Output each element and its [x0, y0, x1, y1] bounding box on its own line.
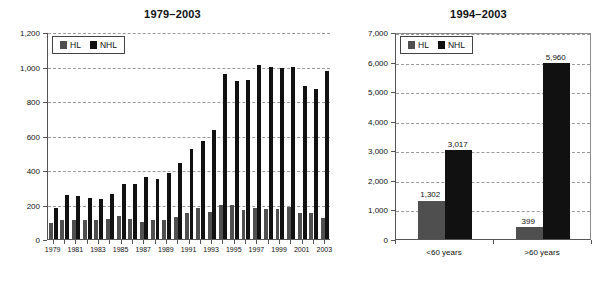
x-axis-tick-label: 1979: [45, 246, 61, 253]
x-axis-tick-mark: [313, 240, 314, 244]
x-axis-category-divider: [493, 240, 494, 244]
legend-entry-nhl: NHL: [438, 40, 465, 50]
y-axis-tick-label: 1,000: [0, 63, 40, 72]
y-axis-tick-label: 1,000: [352, 206, 388, 215]
x-axis-tick-mark: [64, 240, 65, 244]
legend-label-hl: HL: [418, 40, 429, 50]
chart-title-left: 1979–2003: [0, 8, 345, 20]
y-axis-tick-label: 5,000: [352, 88, 388, 97]
legend-swatch-hl-icon: [60, 41, 67, 49]
bar-value-label: 1,302: [420, 190, 440, 199]
bar-hl-2003: [321, 218, 325, 239]
bar-nhl-1987: [144, 177, 148, 239]
legend-entry-nhl: NHL: [90, 40, 117, 50]
x-axis-tick-label: 1989: [158, 246, 174, 253]
chart-panel-right: 1994–2003 HL NHL 01,0002,0003,0004,0005,…: [352, 0, 605, 283]
bar-nhl-1984: [110, 194, 114, 239]
bar-nhl-1992: [201, 141, 205, 239]
x-axis-tick-label: 1995: [226, 246, 242, 253]
x-axis-tick-label: 1991: [181, 246, 197, 253]
bar-hl-1982: [83, 220, 87, 239]
legend-entry-hl: HL: [60, 40, 81, 50]
x-axis-tick-mark: [279, 240, 280, 244]
bar-hl-1988: [151, 220, 155, 239]
legend-swatch-nhl-icon: [90, 41, 97, 49]
x-axis-tick-mark: [75, 240, 76, 244]
bar-hl->60 years: [516, 227, 543, 239]
legend-label-nhl: NHL: [100, 40, 117, 50]
x-axis-tick-mark: [245, 240, 246, 244]
x-axis-category-divider: [591, 240, 592, 244]
x-axis-tick-mark: [166, 240, 167, 244]
x-axis-tick-mark: [132, 240, 133, 244]
bar-nhl-1993: [212, 130, 216, 239]
legend-swatch-nhl-icon: [438, 41, 445, 49]
bar-nhl-2001: [303, 86, 307, 239]
y-axis-tick-mark: [391, 63, 395, 64]
bar-hl-1985: [117, 216, 121, 239]
gridline: [48, 33, 330, 34]
y-axis-tick-mark: [43, 68, 47, 69]
plot-area-right: [395, 33, 591, 240]
x-axis-tick-label: 1993: [203, 246, 219, 253]
bar-nhl-1983: [99, 199, 103, 239]
legend-entry-hl: HL: [408, 40, 429, 50]
x-axis-tick-mark: [200, 240, 201, 244]
x-axis-tick-mark: [155, 240, 156, 244]
x-axis-tick-label: >60 years: [524, 248, 559, 257]
x-axis-tick-mark: [98, 240, 99, 244]
x-axis-tick-mark: [268, 240, 269, 244]
bar-nhl-1994: [223, 74, 227, 239]
chart-legend-right: HL NHL: [400, 36, 473, 54]
chart-legend-left: HL NHL: [52, 36, 125, 54]
y-axis-tick-label: 0: [0, 236, 40, 245]
gridline: [48, 137, 330, 138]
x-axis-tick-mark: [87, 240, 88, 244]
bar-nhl-1998: [269, 67, 273, 239]
y-axis-tick-mark: [43, 33, 47, 34]
x-axis-tick-mark: [302, 240, 303, 244]
x-axis-tick-label: 1999: [271, 246, 287, 253]
y-axis-tick-label: 600: [0, 132, 40, 141]
x-axis-tick-mark: [211, 240, 212, 244]
x-axis-tick-label: <60 years: [426, 248, 461, 257]
bar-hl-1984: [106, 219, 110, 239]
legend-label-nhl: NHL: [448, 40, 465, 50]
y-axis-tick-label: 1,200: [0, 29, 40, 38]
x-axis-tick-mark: [234, 240, 235, 244]
bar-hl-<60 years: [418, 201, 445, 240]
y-axis-tick-mark: [391, 151, 395, 152]
x-axis-tick-mark: [222, 240, 223, 244]
chart-title-right: 1994–2003: [352, 8, 605, 20]
bar-hl-1989: [162, 220, 166, 239]
bar-hl-1987: [140, 222, 144, 239]
y-axis-tick-label: 6,000: [352, 58, 388, 67]
x-axis-tick-mark: [177, 240, 178, 244]
y-axis-tick-label: 2,000: [352, 176, 388, 185]
bar-hl-2002: [309, 213, 313, 239]
bar-nhl-1999: [280, 68, 284, 239]
bar-value-label: 399: [522, 217, 535, 226]
y-axis-tick-mark: [43, 240, 47, 241]
y-axis-tick-label: 200: [0, 201, 40, 210]
bar-hl-1992: [196, 208, 200, 239]
gridline: [48, 68, 330, 69]
y-axis-tick-label: 3,000: [352, 147, 388, 156]
y-axis-tick-label: 0: [352, 236, 388, 245]
bar-hl-1998: [264, 209, 268, 239]
y-axis-tick-mark: [391, 122, 395, 123]
bar-hl-2000: [287, 207, 291, 239]
bar-nhl-1981: [76, 196, 80, 239]
y-axis-tick-mark: [391, 181, 395, 182]
bar-nhl-1997: [257, 65, 261, 239]
bar-nhl-2002: [314, 89, 318, 239]
y-axis-tick-label: 4,000: [352, 117, 388, 126]
bar-hl-1990: [174, 217, 178, 239]
x-axis-tick-mark: [324, 240, 325, 244]
plot-area-left: [47, 33, 330, 240]
bar-hl-2001: [298, 213, 302, 239]
figure-two-bar-charts: 1979–2003 HL NHL 02004006008001,0001,200…: [0, 0, 605, 283]
bar-value-label: 5,960: [546, 53, 566, 62]
x-axis-tick-mark: [53, 240, 54, 244]
bar-hl-1980: [60, 220, 64, 239]
